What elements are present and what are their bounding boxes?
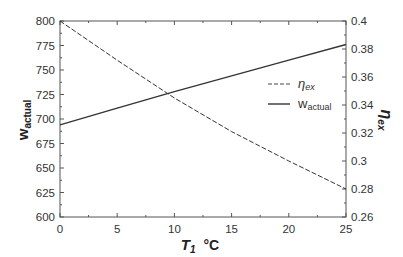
y-right-tick-label: 0.28 — [351, 183, 373, 195]
right-y-axis-ticks: 0.260.280.30.320.340.360.380.4 — [342, 15, 374, 223]
y-left-tick-label: 625 — [36, 187, 55, 199]
x-tick-label: 0 — [57, 223, 63, 235]
y-right-tick-label: 0.36 — [351, 71, 373, 83]
y-left-tick-label: 675 — [36, 138, 55, 150]
y-left-tick-label: 775 — [36, 40, 55, 52]
y-right-tick-label: 0.3 — [351, 155, 367, 167]
left-y-axis-title-main: w — [14, 128, 31, 141]
x-axis-ticks: 0510152025 — [57, 21, 353, 235]
right-y-axis-title-main: η — [378, 110, 395, 120]
y-left-tick-label: 600 — [36, 211, 55, 223]
chart-canvas: 0510152025 600625650675700725750775800 0… — [0, 0, 403, 257]
right-y-axis-title: ηex — [376, 110, 395, 131]
x-axis-title: T1°C — [181, 236, 219, 255]
y-right-tick-label: 0.26 — [351, 211, 373, 223]
y-right-tick-label: 0.38 — [351, 43, 373, 55]
legend: ηex wactual — [268, 76, 331, 112]
x-tick-label: 20 — [282, 223, 295, 235]
y-left-tick-label: 700 — [36, 113, 55, 125]
x-axis-title-unit: °C — [204, 237, 220, 253]
y-left-tick-label: 650 — [36, 162, 55, 174]
y-left-tick-label: 800 — [36, 15, 55, 27]
y-right-tick-label: 0.32 — [351, 127, 373, 139]
y-right-tick-label: 0.34 — [351, 99, 374, 111]
legend-label-w-actual: wactual — [297, 96, 331, 112]
legend-item-eta-ex: ηex — [268, 76, 315, 92]
right-y-axis-title-sub: ex — [376, 119, 387, 131]
left-y-axis-title-sub: actual — [22, 99, 33, 128]
y-right-tick-label: 0.4 — [351, 15, 368, 27]
legend-item-w-actual: wactual — [268, 96, 331, 112]
y-left-tick-label: 750 — [36, 64, 55, 76]
y-left-tick-label: 725 — [36, 89, 55, 101]
x-tick-label: 5 — [114, 223, 120, 235]
x-axis-title-sub: 1 — [190, 244, 196, 255]
x-tick-label: 15 — [225, 223, 238, 235]
x-tick-label: 10 — [168, 223, 181, 235]
x-tick-label: 25 — [340, 223, 353, 235]
left-y-axis-title: wactual — [14, 99, 33, 141]
legend-label-eta-ex: ηex — [298, 76, 315, 92]
